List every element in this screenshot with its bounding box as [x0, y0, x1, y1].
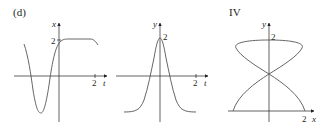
curve-branch-1 [236, 40, 305, 111]
tick-label-x2: 2 [302, 114, 307, 124]
axis-label-t: t [103, 78, 106, 88]
graph-y-vs-t: y 2 2 t [116, 19, 208, 122]
tick-label-t2: 2 [92, 78, 97, 88]
axis-label-t: t [204, 78, 207, 88]
curve-branch-2 [233, 40, 302, 111]
axis-label-x: x [311, 114, 316, 124]
tick-label-x2: 2 [51, 36, 56, 46]
graph-parametric-IV: IV y 2 2 x [228, 6, 316, 124]
tick-label-y2: 2 [163, 32, 168, 42]
tick-label-t2: 2 [193, 78, 198, 88]
graph-title: IV [229, 6, 241, 18]
axis-label-y: y [261, 19, 266, 29]
axis-label-y: y [152, 19, 157, 29]
panel-label: (d) [13, 6, 26, 19]
figure-canvas: (d) x 2 2 t y 2 2 t IV y 2 2 x [0, 0, 317, 134]
graph-x-vs-t: x 2 2 t [14, 19, 107, 122]
axis-label-x: x [51, 19, 56, 29]
